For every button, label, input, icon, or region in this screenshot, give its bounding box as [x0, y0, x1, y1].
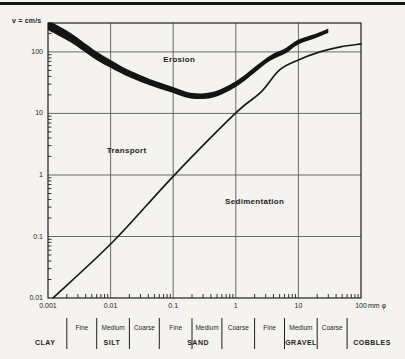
zone-label-transport: Transport [107, 147, 147, 155]
zone-label-erosion: Erosion [163, 56, 195, 64]
x-tick-label: 0.001 [39, 302, 57, 309]
grain-group-label-silt: SILT [104, 339, 121, 346]
grain-subdivision-label: Coarse [134, 325, 155, 332]
grain-subdivision-label: Medium [102, 325, 125, 332]
grain-subdivision-label: Coarse [228, 325, 249, 332]
hjulstrom-chart-canvas [0, 0, 405, 359]
x-axis-unit-label: mm φ [368, 302, 386, 309]
grain-group-label-sand: SAND [187, 339, 209, 346]
y-tick-label: 10 [9, 109, 43, 116]
y-tick-label: 100 [9, 48, 43, 55]
grain-subdivision-label: Medium [195, 325, 218, 332]
grain-subdivision-label: Fine [75, 325, 88, 332]
grain-subdivision-label: Medium [289, 325, 312, 332]
grain-group-label-clay: CLAY [35, 339, 55, 346]
grain-group-label-gravel: GRAVEL [285, 339, 317, 346]
y-tick-label: 1 [9, 171, 43, 178]
plot-border [48, 23, 361, 298]
x-tick-label: 1 [234, 302, 238, 309]
x-tick-label: 100 [355, 302, 367, 309]
grain-group-label-cobbles: COBBLES [353, 339, 391, 346]
x-tick-label: 0.1 [168, 302, 178, 309]
y-tick-label: 0.1 [9, 233, 43, 240]
figure-hjulstrom-diagram: v = cm/s mm φ 0.0010.010.11101000.010.11… [0, 0, 405, 359]
grain-subdivision-label: Fine [169, 325, 182, 332]
grain-subdivision-label: Fine [263, 325, 276, 332]
grain-subdivision-label: Coarse [322, 325, 343, 332]
y-tick-label: 0.01 [9, 294, 43, 301]
zone-label-sedimentation: Sedimentation [225, 198, 284, 206]
settling-velocity-curve [53, 44, 361, 298]
x-tick-label: 10 [294, 302, 302, 309]
x-tick-label: 0.01 [104, 302, 118, 309]
y-axis-label: v = cm/s [12, 17, 41, 24]
